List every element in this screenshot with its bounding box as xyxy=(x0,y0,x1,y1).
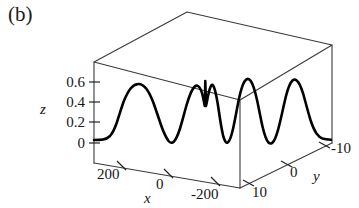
z-tick-label-0.4: 0.4 xyxy=(45,94,85,111)
figure-panel-b: (b) xyxy=(0,0,359,208)
y-tick-label-0: 0 xyxy=(290,164,298,181)
panel-label: (b) xyxy=(8,2,33,27)
data-curve xyxy=(94,79,331,144)
y-axis-label: y xyxy=(313,168,320,185)
z-axis-label: z xyxy=(40,101,46,118)
x-axis-label: x xyxy=(144,190,151,207)
bounding-box xyxy=(94,12,332,188)
x-tick-label-200: 200 xyxy=(97,166,120,183)
z-tick-label-0: 0 xyxy=(45,135,85,152)
x-tick-label-0: 0 xyxy=(156,176,164,193)
y-tick-label-10: 10 xyxy=(252,184,267,201)
x-tick-0 xyxy=(164,169,173,178)
y-tick-label-minus10: -10 xyxy=(331,140,351,157)
z-tick-label-0.2: 0.2 xyxy=(45,114,85,131)
x-tick--200 xyxy=(211,177,220,186)
x-tick-label-minus200: -200 xyxy=(191,186,219,203)
z-tick-label-0.6: 0.6 xyxy=(45,74,85,91)
